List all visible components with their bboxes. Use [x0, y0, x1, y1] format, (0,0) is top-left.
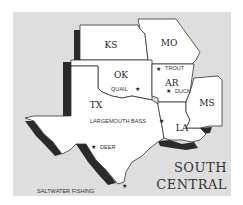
star-icon: ★ [159, 117, 164, 124]
map-title-line2: CENTRAL [156, 177, 227, 192]
state-label-tx: TX [90, 100, 103, 110]
svg-text:LARGEMOUTH BASS: LARGEMOUTH BASS [90, 118, 146, 124]
state-label-ok: OK [114, 70, 128, 80]
map-title-line1: SOUTH [174, 160, 227, 175]
star-icon: ★ [166, 87, 171, 94]
star-icon: ★ [91, 143, 96, 150]
svg-text:TROUT: TROUT [165, 65, 185, 71]
state-label-mo: MO [161, 38, 178, 48]
state-label-la: LA [176, 123, 189, 133]
marker-quail[interactable]: QUAIL ★ [111, 85, 140, 92]
marker-duck[interactable]: ★ DUCK [166, 87, 191, 94]
svg-text:QUAIL: QUAIL [111, 86, 128, 92]
star-icon: ★ [122, 182, 127, 189]
svg-text:DUCK: DUCK [175, 88, 191, 94]
state-label-ks: KS [105, 40, 118, 50]
marker-trout[interactable]: ★ TROUT [156, 65, 185, 72]
svg-text:DEER: DEER [100, 144, 116, 150]
marker-saltwater-fishing[interactable]: SALTWATER FISHING ★ [37, 182, 127, 194]
star-icon: ★ [135, 85, 140, 92]
state-label-ms: MS [199, 98, 214, 108]
svg-text:SALTWATER FISHING: SALTWATER FISHING [37, 188, 94, 194]
marker-deer[interactable]: ★ DEER [91, 143, 116, 150]
star-icon: ★ [156, 65, 161, 72]
south-central-map: KS MO OK AR TX LA MS ★ TROUT QUAIL ★ ★ D… [0, 0, 243, 205]
